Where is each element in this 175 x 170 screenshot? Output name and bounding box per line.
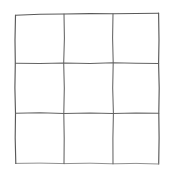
grid-cell-r3c1[interactable] — [15, 113, 64, 164]
grid-cell-r2c1[interactable] — [15, 63, 64, 113]
grid-cell-r1c2[interactable] — [64, 14, 113, 63]
grid-cell-r3c2[interactable] — [64, 113, 113, 164]
grid-cell-r1c3[interactable] — [113, 14, 159, 63]
figure-canvas — [0, 0, 175, 170]
grid-cell-r2c2[interactable] — [64, 63, 113, 113]
grid-figure — [0, 0, 175, 170]
grid-border-right-line — [159, 13, 160, 164]
grid-cell-r1c1[interactable] — [15, 14, 64, 63]
grid-cell-r3c3[interactable] — [113, 113, 159, 164]
grid-cells — [15, 14, 159, 164]
grid-cell-r2c3[interactable] — [113, 63, 159, 113]
